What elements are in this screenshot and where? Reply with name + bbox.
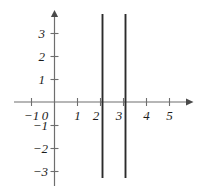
y-label-neg3: −3 [33, 164, 49, 179]
graph-figure: −1 0 1 2 3 4 5 3 2 1 −1 −2 −3 [0, 0, 199, 189]
x-label-1: 1 [74, 108, 81, 123]
coordinate-plane: −1 0 1 2 3 4 5 3 2 1 −1 −2 −3 [0, 0, 199, 189]
y-label-3: 3 [38, 26, 46, 41]
y-axis-arrow-icon [51, 10, 58, 17]
y-label-1: 1 [39, 72, 46, 87]
y-label-neg1: −1 [33, 118, 48, 133]
x-label-2: 2 [93, 108, 100, 123]
x-label-3: 3 [115, 108, 123, 123]
y-label-neg2: −2 [33, 141, 49, 156]
x-label-4: 4 [143, 108, 150, 123]
x-label-5: 5 [166, 108, 173, 123]
y-label-2: 2 [39, 49, 46, 64]
x-axis-arrow-icon [186, 98, 194, 105]
